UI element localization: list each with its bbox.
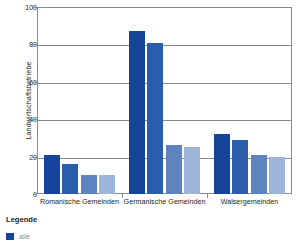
chart-figure: Landwirtschaftsbetriebe 100806040200 Rom… [0,0,304,241]
bar [99,175,115,194]
bar [129,31,145,194]
bar [232,140,248,194]
bar [147,43,163,195]
bar [184,147,200,194]
bars-layer [37,7,292,194]
bar [62,164,78,194]
legend-item: alle [6,233,30,240]
x-axis-label: Walsergemeinden [190,197,305,206]
y-tick-mark [33,194,37,195]
bar [44,155,60,194]
bar [166,145,182,194]
bar [81,175,97,194]
bar [251,155,267,194]
legend-color-swatch [6,233,14,240]
bar [269,157,285,194]
bar [214,134,230,194]
legend-item-label: alle [19,233,30,240]
legend-title: Legende [6,215,37,224]
